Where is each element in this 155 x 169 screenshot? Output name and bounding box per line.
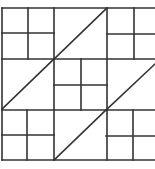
quilt-block-svg [0, 0, 155, 169]
four-patch-top-right [107, 8, 155, 59]
quilt-diagram [0, 0, 155, 169]
middle-left-diagonal [2, 59, 54, 109]
four-patch-center [54, 59, 107, 110]
four-patch-bottom-left [2, 110, 54, 160]
diagonal-lines [2, 8, 155, 160]
middle-right-diagonal [106, 64, 155, 110]
four-patch-top-left [2, 8, 54, 59]
bottom-center-diagonal [54, 110, 106, 160]
four-patch-bottom-right [106, 110, 155, 160]
top-center-diagonal [54, 8, 107, 59]
